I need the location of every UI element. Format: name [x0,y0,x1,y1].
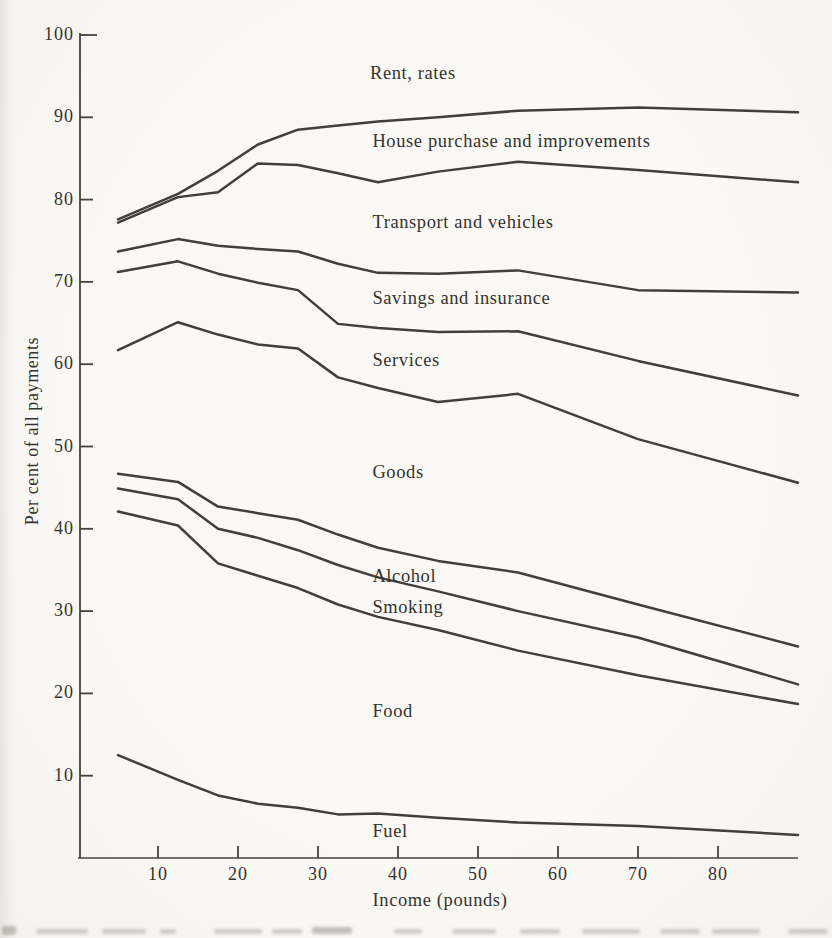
y-tick-label: 40 [28,518,74,539]
y-tick-label: 50 [28,436,74,457]
y-tick-label: 70 [28,271,74,292]
x-axis-title: Income (pounds) [340,890,540,911]
series-line-smoking-upper-boundary [118,488,798,684]
x-tick-label: 40 [376,864,420,885]
series-line-goods-upper-boundary [118,322,798,482]
band-label-goods: Goods [372,462,423,483]
series-line-savings-upper-boundary [118,239,798,292]
series-line-fuel-upper-boundary [118,755,798,835]
y-tick-label: 30 [28,600,74,621]
series-line-house-purchase-upper-boundary [118,107,798,219]
band-label-services: Services [372,350,439,371]
scanned-line-chart-page: Per cent of all payments Income (pounds)… [0,0,832,938]
band-label-smoking: Smoking [372,597,443,618]
y-tick-label: 10 [28,765,74,786]
y-tick-label: 100 [28,24,74,45]
x-tick-label: 70 [616,864,660,885]
y-tick-label: 80 [28,189,74,210]
x-tick-label: 60 [536,864,580,885]
series-line-food-upper-boundary [118,512,798,705]
band-label-rent-rates: Rent, rates [370,63,456,84]
x-tick-label: 30 [296,864,340,885]
y-tick-label: 60 [28,353,74,374]
series-line-alcohol-upper-boundary [118,474,798,647]
x-tick-label: 10 [136,864,180,885]
series-line-services-upper-boundary [118,261,798,395]
x-tick-label: 50 [456,864,500,885]
band-label-alcohol: Alcohol [372,566,436,587]
y-tick-label: 90 [28,106,74,127]
cutoff-print-artifact [0,926,832,938]
band-label-transport-and-vehicles: Transport and vehicles [372,212,553,233]
y-tick-label: 20 [28,682,74,703]
x-tick-label: 20 [216,864,260,885]
band-label-fuel: Fuel [372,821,407,842]
band-label-savings-and-insurance: Savings and insurance [372,288,550,309]
x-tick-label: 80 [696,864,740,885]
band-label-food: Food [372,701,412,722]
band-label-house-purchase-and-improvements: House purchase and improvements [372,131,650,152]
